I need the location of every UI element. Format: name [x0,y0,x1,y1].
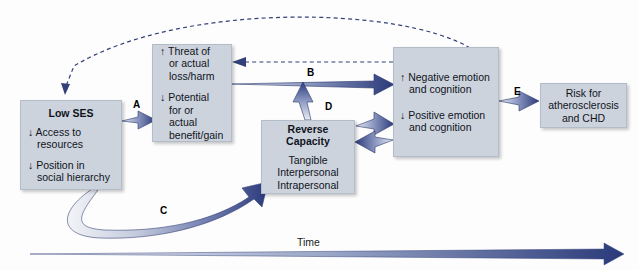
path-label-a: A [133,99,140,110]
time-axis-label: Time [297,236,320,248]
diagram-canvas: Low SES ↓ Access to resources ↓ Position… [0,0,639,270]
time-axis-arrow [30,243,624,265]
path-label-b: B [307,67,314,78]
box-threat-potential[interactable]: ↑ Threat of or actual loss/harm ↓ Potent… [152,44,232,142]
box-risk-chd[interactable]: Risk for atherosclerosis and CHD [540,83,627,128]
path-label-e: E [514,86,521,97]
reverse-capacity-line-3: Intrapersonal [267,179,349,192]
emotion-item-2: ↓ Positive emotion and cognition [400,109,492,134]
reverse-capacity-line-2: Interpersonal [267,166,349,179]
threat-item-2: ↓ Potential for or actual benefit/gain [160,91,224,141]
reverse-capacity-title: Reverse Capacity [267,123,349,147]
risk-line-3: and CHD [544,112,623,125]
box-low-ses[interactable]: Low SES ↓ Access to resources ↓ Position… [20,100,122,190]
arrow-emotion-to-rc [355,131,393,153]
arrow-d [293,82,313,120]
risk-line-2: atherosclerosis [544,99,623,112]
low-ses-item-1: ↓ Access to resources [28,126,114,151]
emotion-item-1: ↑ Negative emotion and cognition [400,71,492,96]
path-label-d: D [325,101,332,112]
low-ses-title: Low SES [28,107,114,119]
dashed-feedback-short [232,57,393,67]
path-label-c: C [160,205,167,216]
low-ses-item-2: ↓ Position in social hierarchy [28,159,114,184]
reverse-capacity-line-1: Tangible [267,154,349,167]
box-reverse-capacity[interactable]: Reverse Capacity Tangible Interpersonal … [261,120,355,194]
threat-item-1: ↑ Threat of or actual loss/harm [160,45,224,83]
risk-line-1: Risk for [544,87,623,100]
arrow-c [67,182,268,238]
box-emotion-cognition[interactable]: ↑ Negative emotion and cognition ↓ Posit… [393,47,499,157]
arrow-a [122,111,156,129]
